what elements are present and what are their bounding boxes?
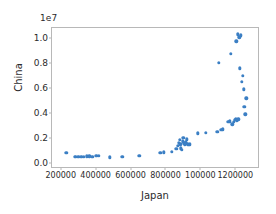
data-point xyxy=(162,151,165,154)
y-tick-label: 0.8 xyxy=(34,58,48,68)
y-tick-mark xyxy=(49,63,52,64)
data-point xyxy=(138,154,141,157)
x-tick-label: 1200000 xyxy=(217,171,253,180)
data-point xyxy=(65,151,68,154)
plot-axes: 0.00.20.40.60.81.02000004000006000008000… xyxy=(51,27,259,168)
data-point xyxy=(216,130,219,133)
data-point xyxy=(188,143,191,146)
y-tick-label: 0.6 xyxy=(34,83,48,93)
data-point xyxy=(170,150,173,153)
x-tick-mark xyxy=(165,167,166,170)
y-tick-mark xyxy=(49,38,52,39)
data-point xyxy=(180,148,183,151)
data-point xyxy=(230,123,233,126)
data-point xyxy=(239,34,242,37)
data-point xyxy=(244,96,247,99)
y-tick-mark xyxy=(49,163,52,164)
data-point xyxy=(185,137,188,140)
data-point xyxy=(229,52,232,55)
data-point xyxy=(90,155,93,158)
data-point xyxy=(234,39,237,42)
data-point xyxy=(243,105,246,108)
x-tick-mark xyxy=(60,167,61,170)
y-tick-label: 1.0 xyxy=(34,33,48,43)
x-tick-label: 800000 xyxy=(150,171,181,180)
data-point xyxy=(175,147,178,150)
y-axis-title: China xyxy=(13,48,24,108)
y-axis-offset-label: 1e7 xyxy=(40,13,57,23)
data-point xyxy=(221,127,224,130)
data-point xyxy=(204,131,207,134)
y-tick-label: 0.0 xyxy=(34,158,48,168)
data-point xyxy=(240,80,243,83)
data-point xyxy=(237,117,240,120)
x-tick-mark xyxy=(130,167,131,170)
y-tick-label: 0.2 xyxy=(34,133,48,143)
y-tick-mark xyxy=(49,88,52,89)
y-tick-mark xyxy=(49,138,52,139)
y-tick-mark xyxy=(49,113,52,114)
x-tick-label: 200000 xyxy=(45,171,76,180)
data-point xyxy=(121,155,124,158)
data-point xyxy=(217,61,220,64)
x-tick-label: 100000 xyxy=(185,171,216,180)
data-point xyxy=(196,131,199,134)
data-point xyxy=(97,154,100,157)
plot-data-area xyxy=(52,28,258,167)
scatter-plot-figure: 1e7 0.00.20.40.60.81.0200000400000600000… xyxy=(0,0,276,214)
data-point xyxy=(242,87,245,90)
x-axis-title: Japan xyxy=(51,190,259,201)
x-tick-mark xyxy=(235,167,236,170)
data-point xyxy=(241,74,244,77)
x-tick-mark xyxy=(95,167,96,170)
data-point xyxy=(244,113,247,116)
x-tick-label: 400000 xyxy=(80,171,111,180)
data-point xyxy=(108,156,111,159)
x-tick-label: 600000 xyxy=(115,171,146,180)
x-tick-mark xyxy=(200,167,201,170)
data-point xyxy=(238,67,241,70)
y-tick-label: 0.4 xyxy=(34,108,48,118)
